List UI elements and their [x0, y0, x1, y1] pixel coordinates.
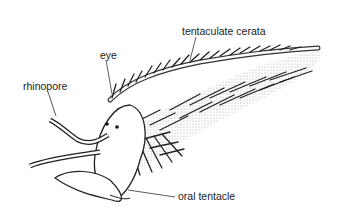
label-eye: eye	[100, 49, 117, 61]
label-oral-tentacle: oral tentacle	[178, 190, 235, 202]
label-rhinopore: rhinopore	[23, 80, 67, 92]
nudibranch-diagram: tentaculate cerata eye rhinopore oral te…	[0, 0, 341, 218]
nudibranch-illustration	[0, 0, 341, 218]
label-tentaculate-cerata: tentaculate cerata	[182, 25, 265, 37]
